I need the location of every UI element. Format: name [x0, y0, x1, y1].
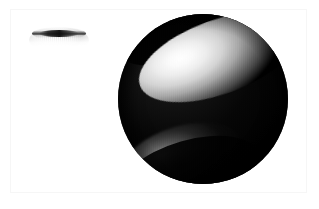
small-lens-ellipsoid: Flattened ellipsoid [28, 26, 90, 46]
large-sphere-label: Shaded sphere [118, 14, 119, 15]
render-canvas: Flattened ellipsoid Shaded sphere [0, 0, 319, 209]
lens-bottom-fade [28, 37, 90, 46]
lens-arc-core [39, 30, 79, 37]
small-lens-label: Flattened ellipsoid [28, 26, 29, 27]
canvas-caption [0, 0, 1, 1]
dither-texture-overlay [118, 14, 288, 184]
large-sphere: Shaded sphere [118, 14, 288, 184]
